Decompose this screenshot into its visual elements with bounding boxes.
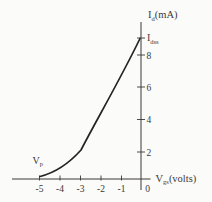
x-tick-label-minus5: -5	[36, 184, 44, 194]
x-tick-label-minus2: -2	[97, 184, 105, 194]
jfet-transfer-characteristic-figure: Id(mA) Idss 8 6 4 2 -5 -4 -3 -2 -1 0 Vgs…	[0, 0, 212, 202]
vp-annotation: Vp	[33, 155, 43, 168]
x-axis-label: Vgs(volts)	[156, 173, 197, 186]
idss-annotation: Idss	[147, 32, 159, 45]
x-tick-label-origin: 0	[145, 184, 150, 194]
chart-canvas: Id(mA) Idss 8 6 4 2 -5 -4 -3 -2 -1 0 Vgs…	[0, 0, 212, 202]
y-tick-label-6: 6	[147, 83, 152, 93]
y-tick-label-2: 2	[147, 148, 152, 158]
x-tick-label-minus4: -4	[56, 184, 64, 194]
x-axis-tick-labels: -5 -4 -3 -2 -1 0	[36, 184, 151, 195]
y-tick-label-4: 4	[147, 115, 152, 125]
y-axis-tick-labels: 8 6 4 2	[147, 51, 152, 158]
x-tick-label-minus3: -3	[77, 184, 85, 194]
x-tick-label-minus1: -1	[118, 184, 126, 194]
y-axis-label: Id(mA)	[148, 9, 178, 22]
x-axis-ticks	[40, 176, 122, 181]
y-tick-label-8: 8	[147, 51, 152, 61]
transfer-curve	[40, 39, 140, 177]
